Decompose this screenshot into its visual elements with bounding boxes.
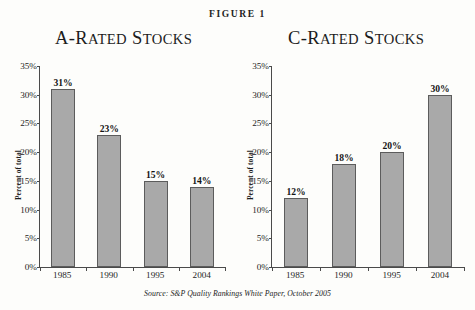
y-tick-label-right: 0% <box>243 262 269 272</box>
y-tick-mark-right <box>269 181 273 182</box>
chart-title-a-rated-smallcaps-2: TOCKS <box>143 31 193 47</box>
y-tick-mark-right <box>269 238 273 239</box>
bar-slot: 15% <box>133 66 179 267</box>
x-tick-label-right: 1985 <box>271 270 319 280</box>
bar-value-label: 12% <box>286 186 305 197</box>
plot-area-a-rated: 31%23%15%14% <box>39 66 225 268</box>
y-tick-label-right: 20% <box>243 147 269 157</box>
x-tick-mark-right <box>464 267 465 271</box>
y-tick-mark-left <box>37 66 41 67</box>
bar-slot: 30% <box>416 66 464 267</box>
y-tick-mark-right <box>269 66 273 67</box>
y-tick-label-left: 5% <box>11 233 37 243</box>
chart-title-c-rated: C-RATED STOCKS <box>288 28 424 49</box>
x-tick-label-left: 2004 <box>179 270 226 280</box>
chart-title-c-rated-smallcaps-1: ATED <box>320 31 359 47</box>
chart-title-a-rated: A-RATED STOCKS <box>55 28 192 49</box>
bar-value-label: 23% <box>100 123 119 134</box>
y-axis-ticks-left: 35%30%25%20%15%10%5%0% <box>8 62 37 287</box>
y-tick-label-left: 15% <box>11 176 37 186</box>
x-tick-mark-left <box>225 267 226 271</box>
chart-title-c-rated-mid: S <box>359 28 375 48</box>
y-tick-mark-left <box>37 210 41 211</box>
bar-1985: 12% <box>284 198 309 267</box>
bar-slot: 12% <box>272 66 320 267</box>
bar-value-label: 14% <box>192 175 211 186</box>
y-tick-label-left: 35% <box>11 61 37 71</box>
bar-value-label: 31% <box>54 77 73 88</box>
bar-value-label: 18% <box>334 152 353 163</box>
chart-panel-a-rated: Percent of total 35%30%25%20%15%10%5%0% … <box>8 62 226 287</box>
source-note: Source: S&P Quality Rankings White Paper… <box>0 289 475 298</box>
x-axis-labels-left: 1985199019952004 <box>39 270 225 280</box>
bar-group-a-rated: 31%23%15%14% <box>40 66 225 267</box>
y-tick-label-right: 5% <box>243 233 269 243</box>
plot-area-c-rated: 12%18%20%30% <box>271 66 464 268</box>
y-axis-ticks-right: 35%30%25%20%15%10%5%0% <box>240 62 269 287</box>
bar-slot: 23% <box>86 66 132 267</box>
x-axis-labels-right: 1985199019952004 <box>271 270 464 280</box>
bar-1985: 31% <box>51 89 75 267</box>
bar-slot: 14% <box>179 66 225 267</box>
x-tick-label-right: 2004 <box>416 270 464 280</box>
y-tick-label-left: 0% <box>11 262 37 272</box>
bar-value-label: 15% <box>146 169 165 180</box>
y-tick-label-right: 10% <box>243 205 269 215</box>
figure-page: FIGURE 1 A-RATED STOCKS Percent of total… <box>0 0 475 310</box>
bar-slot: 20% <box>368 66 416 267</box>
chart-title-c-rated-smallcaps-2: TOCKS <box>375 31 425 47</box>
chart-title-a-rated-mid: S <box>127 28 143 48</box>
bar-2004: 14% <box>190 187 214 267</box>
x-tick-label-left: 1995 <box>132 270 179 280</box>
bar-group-c-rated: 12%18%20%30% <box>272 66 464 267</box>
y-tick-mark-left <box>37 238 41 239</box>
x-tick-label-left: 1985 <box>39 270 86 280</box>
bar-2004: 30% <box>428 95 453 267</box>
chart-title-a-rated-smallcaps-1: ATED <box>88 31 127 47</box>
bar-value-label: 30% <box>430 83 449 94</box>
figure-number-label: FIGURE 1 <box>0 9 475 19</box>
y-tick-label-right: 25% <box>243 118 269 128</box>
chart-panel-c-rated: Percent of total 35%30%25%20%15%10%5%0% … <box>240 62 465 287</box>
bar-1995: 20% <box>380 152 405 267</box>
y-tick-mark-right <box>269 123 273 124</box>
x-tick-label-left: 1990 <box>86 270 133 280</box>
y-tick-mark-right <box>269 152 273 153</box>
chart-title-a-rated-lead: A-R <box>55 28 88 48</box>
y-tick-label-right: 15% <box>243 176 269 186</box>
bar-1990: 18% <box>332 164 357 267</box>
bar-1990: 23% <box>97 135 121 267</box>
bar-slot: 31% <box>40 66 86 267</box>
y-tick-label-left: 25% <box>11 118 37 128</box>
y-tick-mark-right <box>269 95 273 96</box>
y-tick-mark-left <box>37 95 41 96</box>
chart-title-c-rated-lead: C-R <box>288 28 320 48</box>
bar-1995: 15% <box>144 181 168 267</box>
y-tick-label-right: 30% <box>243 90 269 100</box>
x-tick-label-right: 1995 <box>368 270 416 280</box>
y-tick-mark-left <box>37 181 41 182</box>
y-tick-label-right: 35% <box>243 61 269 71</box>
y-tick-label-left: 30% <box>11 90 37 100</box>
y-tick-label-left: 10% <box>11 205 37 215</box>
y-tick-label-left: 20% <box>11 147 37 157</box>
y-tick-mark-right <box>269 210 273 211</box>
bar-slot: 18% <box>320 66 368 267</box>
y-tick-mark-left <box>37 152 41 153</box>
y-tick-mark-left <box>37 123 41 124</box>
bar-value-label: 20% <box>382 140 401 151</box>
x-tick-label-right: 1990 <box>319 270 367 280</box>
